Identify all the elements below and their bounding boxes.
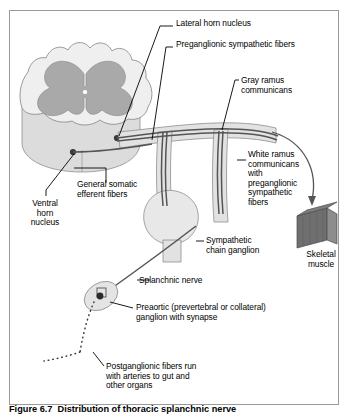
- label-splanchnic-nerve: Splanchnic nerve: [139, 276, 202, 286]
- preaortic-ganglion-body: [79, 275, 123, 316]
- label-postganglionic-fibers: Postganglionic fibers run with arteries …: [106, 362, 196, 391]
- figure-caption: Figure 6.7 Distribution of thoracic spla…: [9, 404, 345, 414]
- label-preganglionic-sympathetic-fibers: Preganglionic sympathetic fibers: [176, 40, 295, 50]
- label-white-ramus-communicans: White ramus communicans with preganglion…: [248, 150, 299, 208]
- label-sympathetic-chain-ganglion: Sympathetic chain ganglion: [206, 236, 259, 255]
- label-general-somatic-efferent-fibers: General somatic efferent fibers: [77, 180, 137, 199]
- skeletal-muscle-block: [297, 202, 337, 248]
- label-lateral-horn-nucleus: Lateral horn nucleus: [176, 19, 251, 29]
- central-canal: [82, 89, 87, 94]
- label-gray-ramus-communicans: Gray ramus communicans: [241, 76, 292, 95]
- label-preaortic-ganglion: Preaortic (prevertebral or collateral) g…: [136, 303, 266, 322]
- label-ventral-horn-nucleus: Ventral horn nucleus: [17, 199, 73, 228]
- postganglionic-dotted-fibers: [44, 302, 94, 361]
- label-skeletal-muscle: Skeletal muscle: [297, 250, 345, 269]
- synapse-dot: [97, 293, 104, 300]
- sympathetic-chain-ganglion-body: [144, 190, 199, 244]
